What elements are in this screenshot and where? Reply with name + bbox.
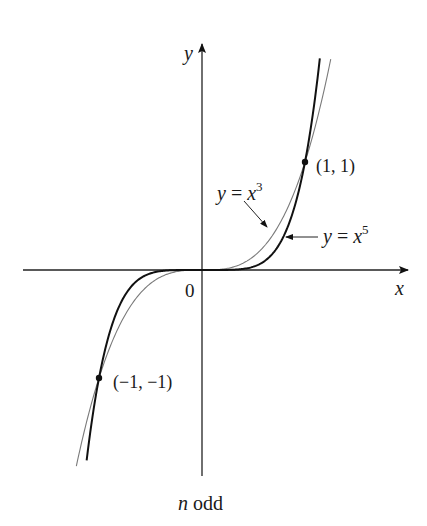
caption: n odd	[178, 492, 223, 514]
point-1-1-marker	[302, 159, 308, 165]
y-axis-label: y	[182, 42, 193, 65]
x-fifth-label: y = x5	[321, 222, 369, 248]
curve-x-cubed	[76, 59, 330, 466]
x-cubed-label: y = x3	[215, 179, 263, 205]
x-axis-label: x	[394, 277, 404, 299]
power-function-graph: y x 0 (1, 1) (−1, −1) y = x3 y = x5 n od…	[0, 0, 427, 526]
point-neg1-neg1-marker	[96, 375, 102, 381]
point-1-1-label: (1, 1)	[316, 156, 355, 177]
x-cubed-label-arrow	[244, 201, 267, 227]
point-neg1-neg1-label: (−1, −1)	[113, 372, 172, 393]
origin-label: 0	[185, 280, 195, 301]
curve-x-fifth	[87, 58, 320, 460]
